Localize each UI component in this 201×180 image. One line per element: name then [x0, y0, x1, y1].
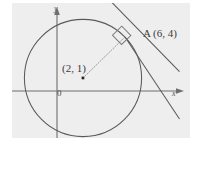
- centre-point-dot: [82, 77, 85, 80]
- geometry-diagram: [12, 3, 190, 138]
- x-axis-arrow-icon: [176, 88, 184, 94]
- figure-root: y x 0 (2, 1) A (6, 4): [0, 0, 201, 180]
- x-axis-label: x: [172, 90, 176, 98]
- tangent-line-lower: [125, 37, 180, 119]
- x-axis: [12, 88, 184, 94]
- diagram-panel: y x 0 (2, 1) A (6, 4): [12, 3, 190, 138]
- point-a-label: A (6, 4): [143, 28, 177, 39]
- radius-segment: [83, 37, 125, 78]
- centre-point-label: (2, 1): [62, 63, 86, 74]
- y-axis-label: y: [54, 5, 58, 13]
- origin-label: 0: [57, 89, 62, 98]
